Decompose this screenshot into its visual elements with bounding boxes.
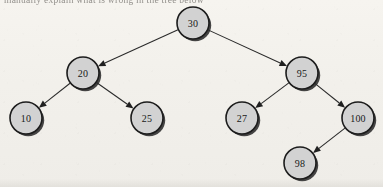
arrowhead-20-to-25 (126, 102, 134, 109)
tree-node-20[interactable]: 20 (67, 57, 101, 91)
tree-edge-100-to-98 (319, 128, 345, 148)
nodes-layer: 30209510252710098 (10, 7, 376, 181)
tree-diagram-page: manually explain what is wrong in the tr… (0, 0, 383, 187)
tree-edge-30-to-20 (105, 30, 178, 63)
node-label-98: 98 (295, 158, 305, 169)
node-label-95: 95 (297, 68, 307, 79)
tree-node-95[interactable]: 95 (286, 57, 320, 91)
tree-node-10[interactable]: 10 (10, 102, 44, 136)
tree-node-100[interactable]: 100 (342, 102, 376, 136)
tree-edge-30-to-95 (208, 30, 280, 63)
arrowhead-95-to-27 (255, 101, 263, 108)
tree-node-30[interactable]: 30 (177, 7, 211, 41)
edges-layer (39, 30, 345, 153)
arrowhead-95-to-100 (337, 100, 345, 107)
arrowhead-20-to-10 (39, 101, 47, 108)
tree-node-98[interactable]: 98 (284, 147, 318, 181)
node-label-30: 30 (188, 18, 198, 29)
tree-edge-95-to-100 (315, 83, 339, 103)
node-label-100: 100 (350, 113, 366, 124)
tree-edge-20-to-10 (45, 83, 70, 103)
node-label-20: 20 (78, 68, 88, 79)
arrowhead-100-to-98 (313, 146, 321, 153)
node-label-25: 25 (142, 113, 152, 124)
tree-node-27[interactable]: 27 (226, 102, 260, 136)
node-label-27: 27 (237, 113, 247, 124)
tree-edge-95-to-27 (261, 83, 289, 104)
tree-node-25[interactable]: 25 (131, 102, 165, 136)
binary-search-tree-graphic: 30209510252710098 (0, 0, 383, 187)
node-label-10: 10 (21, 113, 31, 124)
tree-edge-20-to-25 (97, 82, 128, 104)
